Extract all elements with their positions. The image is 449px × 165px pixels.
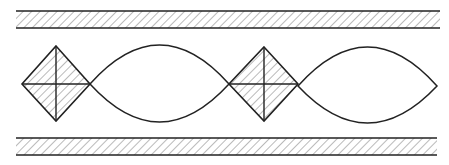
lens-2: [298, 47, 437, 123]
bottom-wall: [16, 138, 437, 155]
channel-diagram: [0, 0, 449, 165]
diamond-2: [229, 47, 298, 121]
lens-1: [90, 45, 229, 122]
diamond-1: [22, 46, 90, 121]
diamonds: [22, 46, 298, 121]
top-wall: [16, 11, 440, 28]
diagram-canvas: [0, 0, 449, 165]
